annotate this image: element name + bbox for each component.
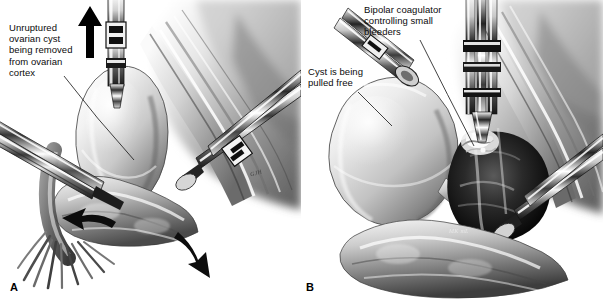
illustration-figure: Unruptured ovarian cyst being removed fr…	[0, 0, 603, 307]
panel-letter-a: A	[10, 281, 18, 293]
panel-b: Bipolar coagulator controlling small ble…	[302, 0, 603, 307]
panel-a: Unruptured ovarian cyst being removed fr…	[0, 0, 301, 307]
panel-letter-b: B	[306, 281, 314, 293]
panel-a-artwork	[0, 0, 301, 307]
artist-signature-b: MK mL	[449, 228, 469, 234]
panel-b-artwork	[302, 0, 603, 307]
